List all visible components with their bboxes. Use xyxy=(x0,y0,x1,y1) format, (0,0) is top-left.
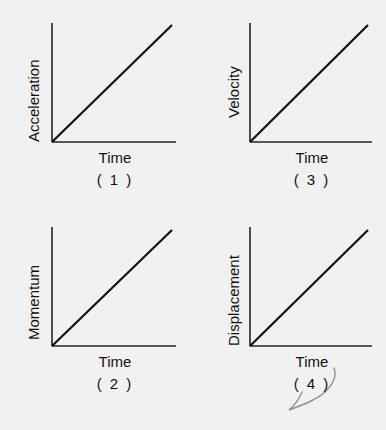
graph-3 xyxy=(250,23,372,142)
graph-1-x-label: Time xyxy=(75,150,155,166)
graph-4-number: ( 4 ) xyxy=(272,376,352,392)
graph-1-line xyxy=(52,25,172,142)
graph-2-number: ( 2 ) xyxy=(75,376,155,392)
graph-4-x-label: Time xyxy=(272,354,352,370)
graph-1-number: ( 1 ) xyxy=(75,172,155,188)
graph-2-x-label: Time xyxy=(75,354,155,370)
graph-1-y-label: Acceleration xyxy=(26,59,42,142)
graph-3-y-label: Velocity xyxy=(226,66,242,118)
graph-4-y-label: Displacement xyxy=(226,255,242,346)
graph-3-x-label: Time xyxy=(272,150,352,166)
graph-4-line xyxy=(250,230,368,346)
graph-2-y-label: Momentum xyxy=(26,265,42,340)
graph-3-line xyxy=(250,25,368,142)
graph-1 xyxy=(52,23,176,142)
graph-4 xyxy=(250,227,372,346)
graph-2 xyxy=(52,227,176,346)
graph-3-number: ( 3 ) xyxy=(272,172,352,188)
graph-2-line xyxy=(52,230,172,346)
